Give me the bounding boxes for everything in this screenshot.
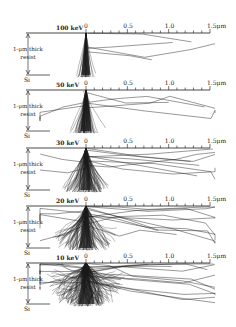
resist-label-line2: resist bbox=[6, 284, 50, 291]
resist-label-line1: 1-μm thick bbox=[6, 161, 50, 168]
tick-label-0: 0 bbox=[84, 252, 88, 259]
tick-label-1.0: 1.0 bbox=[165, 79, 175, 86]
tick-label-0: 0 bbox=[84, 137, 88, 144]
scattered-trajectory bbox=[85, 270, 216, 296]
scattered-trajectory bbox=[85, 161, 215, 179]
panel-50-kev bbox=[26, 86, 215, 133]
tick-label-0.5: 0.5 bbox=[123, 252, 133, 259]
resist-label-line2: resist bbox=[6, 169, 50, 176]
energy-label: 100 keV bbox=[56, 24, 83, 31]
substrate-label-si: Si bbox=[24, 191, 30, 198]
tick-label-0: 0 bbox=[84, 195, 88, 202]
energy-label: 20 keV bbox=[56, 197, 79, 204]
scattered-trajectory bbox=[87, 281, 216, 303]
tick-label-0.5: 0.5 bbox=[123, 195, 133, 202]
panel-30-kev bbox=[26, 144, 215, 192]
panel-20-kev bbox=[26, 202, 215, 250]
tick-label-0.5: 0.5 bbox=[123, 137, 133, 144]
tick-label-0: 0 bbox=[84, 22, 88, 29]
resist-label-line1: 1-μm thick bbox=[6, 219, 50, 226]
scattered-trajectory bbox=[83, 149, 213, 157]
resist-label-line1: 1-μm thick bbox=[6, 46, 50, 53]
resist-label-line1: 1-μm thick bbox=[6, 276, 50, 283]
scattered-trajectory bbox=[88, 33, 191, 42]
scattered-trajectory bbox=[85, 266, 171, 267]
tick-label-1.5um: 1.5μm bbox=[207, 137, 226, 144]
substrate-label-si: Si bbox=[24, 76, 30, 83]
scattered-trajectory bbox=[84, 156, 197, 176]
tick-label-0.5: 0.5 bbox=[123, 79, 133, 86]
resist-label-line2: resist bbox=[6, 54, 50, 61]
electron-trajectory-figure: 100 keV00.51.01.5μm1-μm thickresistSi50 … bbox=[0, 0, 236, 327]
scattered-trajectory bbox=[84, 265, 215, 274]
tick-label-1.5um: 1.5μm bbox=[207, 79, 226, 86]
tick-label-1.5um: 1.5μm bbox=[207, 195, 226, 202]
resist-label-line1: 1-μm thick bbox=[6, 103, 50, 110]
tick-label-0: 0 bbox=[84, 79, 88, 86]
resist-label-line2: resist bbox=[6, 227, 50, 234]
tick-label-0.5: 0.5 bbox=[123, 22, 133, 29]
substrate-label-si: Si bbox=[24, 305, 30, 312]
energy-label: 10 keV bbox=[56, 254, 79, 261]
tick-label-1.0: 1.0 bbox=[165, 252, 175, 259]
energy-label: 30 keV bbox=[56, 139, 79, 146]
scattered-trajectory bbox=[88, 43, 173, 49]
panel-100-kev bbox=[26, 29, 215, 77]
scattered-trajectory bbox=[87, 44, 215, 58]
tick-label-1.0: 1.0 bbox=[165, 22, 175, 29]
tick-label-1.5um: 1.5μm bbox=[207, 22, 226, 29]
substrate-label-si: Si bbox=[24, 132, 30, 139]
tick-label-1.0: 1.0 bbox=[165, 195, 175, 202]
scattered-trajectory bbox=[83, 215, 215, 240]
panel-10-kev bbox=[26, 259, 215, 306]
energy-label: 50 keV bbox=[56, 81, 79, 88]
resist-label-line2: resist bbox=[6, 111, 50, 118]
tick-label-1.5um: 1.5μm bbox=[207, 252, 226, 259]
tick-label-1.0: 1.0 bbox=[165, 137, 175, 144]
substrate-label-si: Si bbox=[24, 249, 30, 256]
